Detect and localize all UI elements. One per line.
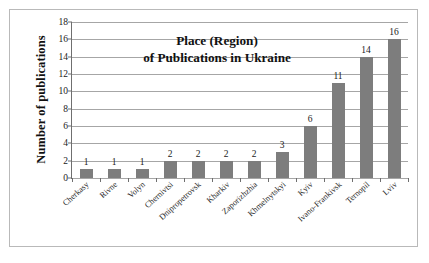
bar[interactable] [220, 161, 233, 178]
bar-value-label: 3 [280, 140, 285, 150]
bar-value-label: 16 [389, 27, 399, 37]
bar-value-label: 2 [196, 149, 201, 159]
bar-series: 111222236111416 [72, 22, 408, 178]
bar-value-label: 2 [252, 149, 257, 159]
bar-item[interactable]: 1 [100, 22, 128, 178]
x-axis-category-label: Lviv [381, 180, 399, 197]
x-axis-category-labels: CherkasyRivneVolynChernivtsiDnipropetrov… [71, 180, 408, 252]
y-axis-tick-label: 6 [63, 121, 68, 131]
bar-item[interactable]: 11 [324, 22, 352, 178]
bar-value-label: 6 [308, 114, 313, 124]
bar[interactable] [108, 169, 121, 178]
x-axis-category-label: Volyn [126, 180, 147, 200]
bar[interactable] [80, 169, 93, 178]
bar-item[interactable]: 14 [352, 22, 380, 178]
bar[interactable] [388, 39, 401, 178]
y-axis-tick-label: 16 [59, 34, 69, 44]
plot-area: 181614121086420 111222236111416 [71, 22, 408, 179]
bar-item[interactable]: 1 [72, 22, 100, 178]
bar-item[interactable]: 2 [184, 22, 212, 178]
bar[interactable] [136, 169, 149, 178]
y-axis-tick-label: 4 [63, 138, 68, 148]
x-axis-category-label: Rivne [98, 180, 119, 200]
bar-value-label: 1 [140, 157, 145, 167]
bar[interactable] [248, 161, 261, 178]
bar-item[interactable]: 6 [296, 22, 324, 178]
x-axis-category-label: Cherkasy [61, 180, 91, 208]
bar-item[interactable]: 3 [268, 22, 296, 178]
bar-value-label: 1 [112, 157, 117, 167]
bar-item[interactable]: 1 [128, 22, 156, 178]
bar-item[interactable]: 2 [212, 22, 240, 178]
bar[interactable] [164, 161, 177, 178]
bar-item[interactable]: 2 [240, 22, 268, 178]
bar[interactable] [332, 83, 345, 178]
x-axis-category-label: Kyiv [297, 180, 315, 198]
bar[interactable] [276, 152, 289, 178]
y-axis-tick-label: 12 [59, 69, 69, 79]
y-axis-tick-label: 10 [59, 86, 69, 96]
chart-figure: Number of publications 181614121086420 1… [9, 9, 418, 247]
bar-value-label: 2 [224, 149, 229, 159]
y-axis-tick-label: 2 [63, 156, 68, 166]
bar-value-label: 11 [333, 71, 342, 81]
y-axis-title: Number of publications [34, 25, 49, 175]
bar-value-label: 1 [84, 157, 89, 167]
bar[interactable] [192, 161, 205, 178]
bar-item[interactable]: 16 [380, 22, 408, 178]
y-axis-tick-label: 0 [63, 173, 68, 183]
x-axis-category-label: Kharkiv [205, 180, 231, 205]
bar[interactable] [360, 57, 373, 178]
x-axis-category-label: Ternopil [344, 180, 371, 206]
bar-value-label: 2 [168, 149, 173, 159]
bar[interactable] [304, 126, 317, 178]
bar-item[interactable]: 2 [156, 22, 184, 178]
bar-value-label: 14 [361, 45, 371, 55]
y-axis-tick-label: 18 [59, 17, 69, 27]
y-axis-tick-label: 8 [63, 104, 68, 114]
x-axis-tick-mark [408, 178, 409, 182]
y-axis-tick-label: 14 [59, 52, 69, 62]
